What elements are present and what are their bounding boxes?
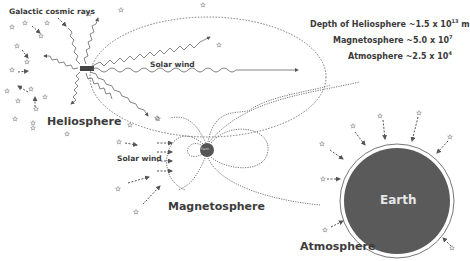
- sun-icon: [80, 66, 94, 71]
- magnetosphere-label: Magnetosphere: [168, 200, 265, 213]
- solar-wind-helio-label: Solar wind: [150, 60, 195, 69]
- earth-label: Earth: [380, 193, 417, 207]
- depth-atmosphere: Atmosphere ~2.5 x 104: [348, 50, 452, 61]
- heliosphere-boundary: [90, 17, 326, 137]
- solar-wind-magneto-label: Solar wind: [117, 154, 162, 163]
- magnetosphere-field-lines: [167, 82, 360, 205]
- earth-small-label: Earth: [201, 147, 209, 151]
- depth-magnetosphere: Magnetosphere ~5.0 x 107: [333, 34, 453, 45]
- galactic-cosmic-rays-label: Galactic cosmic rays: [9, 7, 95, 16]
- atmosphere-label: Atmosphere: [300, 240, 375, 253]
- depth-heliosphere: Depth of Heliosphere ~1.5 x 1013 m: [310, 18, 470, 29]
- magneto-solar-wind-arrows: [125, 143, 172, 204]
- heliosphere-label: Heliosphere: [47, 115, 121, 128]
